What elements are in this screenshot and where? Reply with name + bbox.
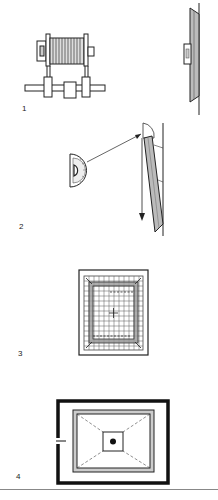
panel-1: 1	[0, 0, 218, 120]
panel-label: 1	[22, 104, 26, 113]
bottom-rule	[0, 489, 218, 490]
panel-2: 2	[0, 120, 218, 250]
grid-frame-illustration	[0, 250, 218, 370]
protractor-illustration	[0, 120, 218, 250]
panel-label: 4	[16, 472, 20, 481]
winch-illustration	[0, 0, 218, 120]
framed-box-illustration	[0, 370, 218, 490]
panel-label: 3	[18, 349, 22, 358]
panel-label: 2	[19, 222, 23, 231]
panel-3: 3	[0, 250, 218, 370]
panel-4: 4	[0, 370, 218, 490]
